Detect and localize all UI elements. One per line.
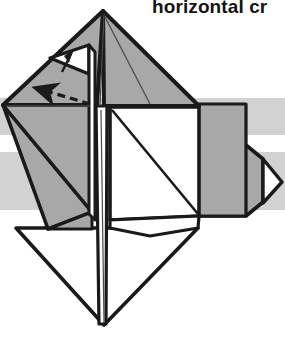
facet-top-right-grey-wing [103, 11, 199, 106]
facet-right-grey-band [196, 104, 246, 216]
figure-page: horizontal cr [0, 0, 285, 337]
paper-facets [3, 11, 282, 325]
origami-model-diagram [0, 0, 285, 337]
facet-right-tip-white-triangle [263, 159, 282, 203]
facet-left-white-edge-column [89, 45, 95, 220]
